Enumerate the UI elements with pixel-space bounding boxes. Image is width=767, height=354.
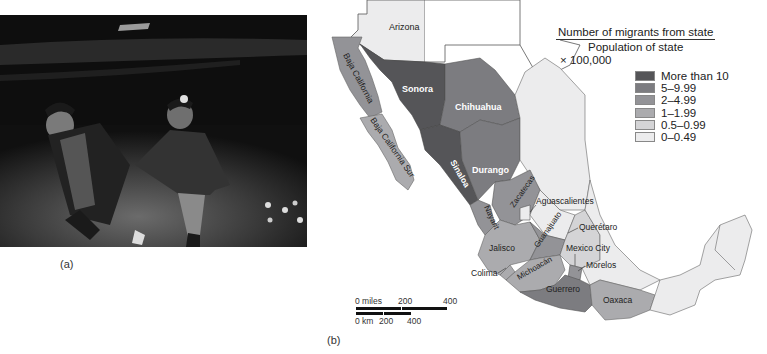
label-mexico-city: Mexico City xyxy=(566,243,611,253)
legend-item: 5–9.99 xyxy=(635,82,729,94)
legend-item: 2–4.99 xyxy=(635,94,729,106)
scale-miles-bar-2 xyxy=(402,307,447,310)
map-legend: More than 10 5–9.99 2–4.99 1–1.99 0.5–0.… xyxy=(635,70,729,143)
formula-denominator: Population of state xyxy=(556,40,715,53)
legend-label: More than 10 xyxy=(661,70,729,82)
scale-miles-label: 0 miles xyxy=(355,296,382,306)
region-aguascalientes xyxy=(520,205,530,220)
scale-km-bar-1 xyxy=(356,312,383,315)
label-chihuahua: Chihuahua xyxy=(455,102,502,112)
label-morelos: Morelos xyxy=(586,260,616,270)
legend-swatch xyxy=(635,83,655,93)
scale-miles-200: 200 xyxy=(398,296,412,306)
label-sonora: Sonora xyxy=(402,84,434,94)
scale-bar: 0 miles 200 400 0 km 200 400 xyxy=(355,296,465,326)
scale-km-200: 200 xyxy=(379,316,393,326)
region-baja-california-sur xyxy=(360,114,414,190)
scale-km-400: 400 xyxy=(407,316,421,326)
legend-swatch xyxy=(635,120,655,130)
scale-miles-bar-1 xyxy=(356,307,401,310)
legend-item: 0.5–0.99 xyxy=(635,119,729,131)
photo-migrants-crossing xyxy=(0,15,307,247)
label-durango: Durango xyxy=(472,165,510,175)
map-caption: (b) xyxy=(327,334,340,346)
label-colima: Colima xyxy=(471,268,498,278)
label-jalisco: Jalisco xyxy=(489,243,515,253)
label-aguascalientes: Aguascalientes xyxy=(536,196,594,206)
label-guerrero: Guerrero xyxy=(546,284,580,294)
legend-swatch xyxy=(635,95,655,105)
formula-numerator: Number of migrants from state xyxy=(556,26,715,40)
region-southeast xyxy=(650,215,752,315)
legend-item: 0–0.49 xyxy=(635,131,729,143)
legend-swatch xyxy=(635,71,655,81)
label-arizona: Arizona xyxy=(389,22,420,32)
legend-label: 0.5–0.99 xyxy=(661,119,706,131)
legend-item: 1–1.99 xyxy=(635,107,729,119)
legend-label: 0–0.49 xyxy=(661,131,696,143)
legend-label: 2–4.99 xyxy=(661,94,696,106)
region-new-mexico-texas xyxy=(425,0,520,62)
legend-item: More than 10 xyxy=(635,70,729,82)
label-queretaro: Querétaro xyxy=(579,222,618,232)
scale-miles-400: 400 xyxy=(443,296,457,306)
label-oaxaca: Oaxaca xyxy=(603,295,633,305)
legend-swatch xyxy=(635,132,655,142)
scale-km-label: 0 km xyxy=(355,316,373,326)
scale-km-bar-2 xyxy=(384,312,411,315)
formula-multiplier: × 100,000 xyxy=(560,54,611,66)
legend-label: 5–9.99 xyxy=(661,82,696,94)
rate-formula: Number of migrants from state Population… xyxy=(556,26,767,66)
legend-swatch xyxy=(635,108,655,118)
photo-caption: (a) xyxy=(60,258,73,270)
legend-label: 1–1.99 xyxy=(661,107,696,119)
